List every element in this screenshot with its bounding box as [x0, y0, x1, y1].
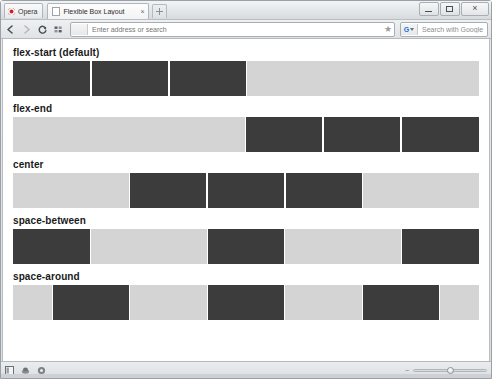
new-tab-button[interactable]	[152, 4, 167, 18]
flex-container-space-around	[13, 285, 479, 320]
opera-logo-icon	[8, 8, 15, 15]
reload-button[interactable]	[36, 23, 49, 36]
title-bar: Opera Flexible Box Layout × ×	[1, 1, 491, 20]
section-title: center	[13, 159, 479, 170]
maximize-button[interactable]	[440, 2, 460, 16]
close-button[interactable]: ×	[461, 2, 489, 16]
section-title: flex-end	[13, 103, 479, 114]
flex-item	[169, 61, 247, 96]
chevron-down-icon	[410, 28, 414, 31]
address-input[interactable]	[88, 24, 382, 35]
tab-title: Flexible Box Layout	[63, 8, 137, 15]
flex-container-space-between	[13, 229, 479, 264]
demo-section: space-around	[13, 271, 479, 320]
browser-tab[interactable]: Flexible Box Layout ×	[47, 3, 149, 19]
flex-item	[91, 61, 169, 96]
section-title: space-around	[13, 271, 479, 282]
site-badge-icon	[71, 24, 88, 35]
flex-container-flex-start	[13, 61, 479, 96]
flex-item	[207, 285, 285, 320]
page-viewport: flex-start (default) flex-end center	[2, 39, 490, 361]
navigation-toolbar: ★ G Search with Google	[1, 20, 491, 39]
flex-item	[52, 285, 130, 320]
bookmark-star-icon[interactable]: ★	[382, 23, 394, 36]
flex-container-flex-end	[13, 117, 479, 152]
window-controls: ×	[419, 2, 489, 16]
demo-section: flex-end	[13, 103, 479, 152]
flex-item	[362, 285, 440, 320]
flex-item	[285, 173, 363, 208]
flex-item	[323, 117, 401, 152]
status-bar: −	[1, 361, 491, 378]
section-title: flex-start (default)	[13, 47, 479, 58]
section-title: space-between	[13, 215, 479, 226]
zoom-out-icon[interactable]: −	[405, 367, 409, 374]
google-icon: G	[404, 26, 409, 33]
forward-button[interactable]	[20, 23, 33, 36]
search-bar[interactable]: G Search with Google	[400, 22, 488, 37]
browser-window: Opera Flexible Box Layout × ×	[0, 0, 492, 379]
flex-item	[245, 117, 323, 152]
demo-section: center	[13, 159, 479, 208]
address-bar[interactable]: ★	[70, 22, 395, 37]
search-input[interactable]: Search with Google	[418, 26, 487, 33]
flex-container-center	[13, 173, 479, 208]
flex-item	[207, 173, 285, 208]
opera-menu-label: Opera	[18, 8, 37, 15]
flex-item	[13, 61, 91, 96]
demo-section: flex-start (default)	[13, 47, 479, 96]
close-icon: ×	[462, 2, 488, 15]
demo-section: space-between	[13, 215, 479, 264]
flex-item	[13, 229, 91, 264]
search-engine-selector[interactable]: G	[401, 24, 418, 35]
page-icon	[52, 7, 60, 16]
zoom-slider-thumb[interactable]	[447, 367, 454, 374]
window-bottom-edge	[1, 374, 491, 378]
speed-dial-button[interactable]	[52, 23, 65, 36]
flex-item	[207, 229, 285, 264]
minimize-button[interactable]	[419, 2, 439, 16]
flex-item	[129, 173, 207, 208]
flex-item	[401, 117, 479, 152]
close-icon[interactable]: ×	[140, 8, 144, 15]
page-content: flex-start (default) flex-end center	[3, 39, 489, 331]
opera-menu-button[interactable]: Opera	[4, 3, 43, 18]
flex-item	[401, 229, 479, 264]
back-button[interactable]	[4, 23, 17, 36]
